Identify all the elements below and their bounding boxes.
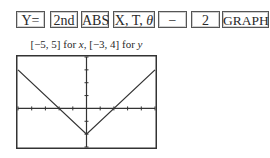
two-key[interactable]: 2	[191, 11, 220, 28]
viewing-window-caption: [−5, 5] for x, [−3, 4] for y	[16, 38, 157, 51]
graph-key[interactable]: GRAPH	[222, 11, 269, 28]
2nd-key[interactable]: 2nd	[50, 11, 78, 28]
abs-key[interactable]: ABS	[81, 11, 109, 28]
minus-key[interactable]: −	[158, 11, 187, 28]
x-t-theta-key[interactable]: X, T, θ	[113, 11, 155, 28]
graph-screen	[16, 55, 157, 149]
graph-plot	[16, 55, 157, 149]
y-equals-key[interactable]: Y=	[16, 11, 45, 28]
